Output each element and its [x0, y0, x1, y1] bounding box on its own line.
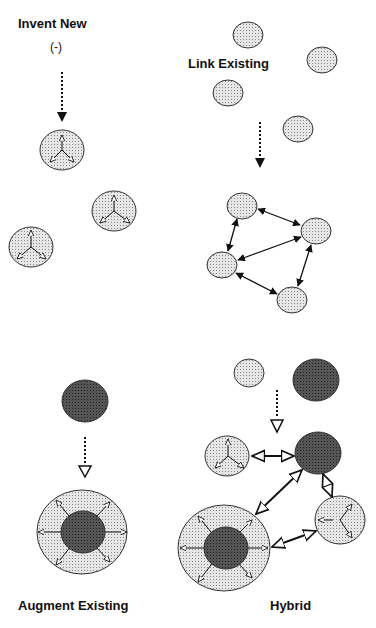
new-node	[9, 227, 53, 267]
new-node	[40, 130, 84, 170]
invent-new-panel	[9, 72, 136, 267]
hybrid-panel	[178, 359, 365, 591]
augment-existing-panel	[37, 380, 127, 574]
link-existing-panel	[207, 22, 337, 313]
diagram-canvas	[0, 0, 376, 628]
new-node	[92, 191, 136, 231]
hybrid-new-node	[205, 436, 249, 476]
hybrid-augmented-node	[178, 505, 270, 591]
